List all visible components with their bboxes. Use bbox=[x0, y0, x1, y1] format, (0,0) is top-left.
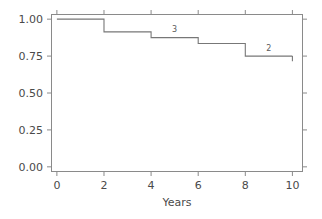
y-tick-label: 0.00 bbox=[19, 161, 44, 172]
plot-svg-canvas bbox=[0, 0, 322, 219]
right-axis-tick-marks bbox=[303, 19, 307, 167]
y-tick-label: 0.50 bbox=[19, 88, 44, 99]
y-tick-label: 1.00 bbox=[19, 14, 44, 25]
x-tick-label: 6 bbox=[195, 180, 202, 191]
at-risk-count-label: 3 bbox=[172, 24, 177, 33]
x-tick-label: 8 bbox=[242, 180, 249, 191]
x-tick-label: 4 bbox=[148, 180, 155, 191]
x-axis-tick-marks bbox=[57, 172, 293, 176]
y-tick-label: 0.25 bbox=[19, 124, 44, 135]
at-risk-count-label: 2 bbox=[266, 43, 271, 52]
x-axis-title: Years bbox=[162, 196, 191, 209]
survival-chart-figure: 0.000.250.500.751.00 0246810 32 Years bbox=[0, 0, 322, 219]
x-tick-label: 2 bbox=[100, 180, 107, 191]
y-axis-tick-marks bbox=[47, 19, 51, 167]
x-tick-label: 0 bbox=[53, 180, 60, 191]
top-axis-tick-marks bbox=[57, 10, 293, 14]
y-tick-label: 0.75 bbox=[19, 51, 44, 62]
x-tick-label: 10 bbox=[285, 180, 299, 191]
